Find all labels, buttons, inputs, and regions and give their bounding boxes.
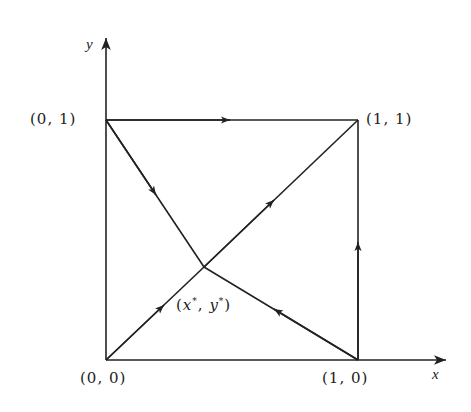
eq-close: ) bbox=[224, 296, 231, 314]
point-label-y-one: (0, 1) bbox=[30, 110, 76, 128]
point-label-equilibrium: (x*, y*) bbox=[176, 296, 231, 314]
eq-sep: , bbox=[198, 296, 210, 314]
eq-y: y bbox=[209, 296, 218, 314]
eq-x: x bbox=[183, 296, 192, 314]
edge-equilibrium-to-corner bbox=[204, 120, 358, 267]
point-label-corner: (1, 1) bbox=[366, 110, 412, 128]
x-axis-label: x bbox=[432, 366, 439, 383]
phase-diagram bbox=[0, 0, 471, 412]
y-axis-label: y bbox=[86, 36, 93, 53]
edge-y-one-to-equilibrium bbox=[106, 120, 204, 267]
point-label-x-one: (1, 0) bbox=[322, 369, 368, 387]
point-label-origin: (0, 0) bbox=[80, 369, 126, 387]
eq-open: ( bbox=[176, 296, 183, 314]
